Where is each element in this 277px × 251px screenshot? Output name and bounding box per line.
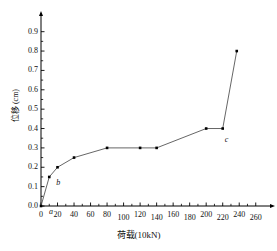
data-point-marker bbox=[205, 127, 208, 130]
point-label-c: c bbox=[225, 135, 229, 144]
data-point-marker bbox=[40, 205, 43, 208]
point-label-a: a bbox=[49, 207, 53, 216]
data-point-marker bbox=[139, 147, 142, 150]
data-point-marker bbox=[235, 50, 238, 53]
point-label-b: b bbox=[56, 178, 60, 187]
data-point-marker bbox=[48, 176, 51, 179]
data-series bbox=[40, 50, 238, 208]
x-axis-title: 荷载(10kN) bbox=[0, 228, 277, 241]
data-point-marker bbox=[106, 147, 109, 150]
data-point-marker bbox=[73, 156, 76, 159]
axes bbox=[41, 16, 270, 206]
plot-area bbox=[0, 0, 277, 251]
data-point-marker bbox=[221, 127, 224, 130]
data-point-marker bbox=[56, 166, 59, 169]
data-point-marker bbox=[155, 147, 158, 150]
displacement-load-chart: 位移 (cm) 0.00.10.20.30.40.50.60.70.80.9 0… bbox=[0, 0, 277, 251]
